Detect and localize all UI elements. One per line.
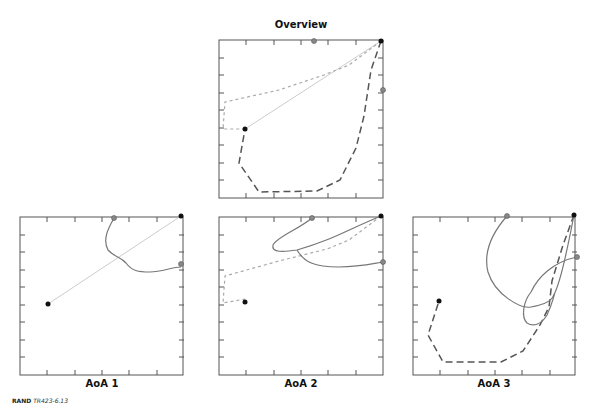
aoa3-panel <box>413 213 580 376</box>
black-point <box>46 302 51 307</box>
diagram-canvas <box>0 0 595 413</box>
solid-curve-upper <box>273 216 381 251</box>
dotted-path <box>223 216 381 303</box>
black-point <box>379 39 384 44</box>
aoa2-panel <box>219 214 386 376</box>
overview-panel <box>219 39 386 199</box>
solid-curve <box>106 218 181 272</box>
gray-point <box>312 39 317 44</box>
gray-point <box>575 255 580 260</box>
black-point <box>243 127 248 132</box>
dotted-path <box>223 41 381 129</box>
black-point <box>243 300 248 305</box>
dashed-path <box>428 215 574 362</box>
solid-curve-lower <box>297 250 383 267</box>
direct-line <box>48 216 181 304</box>
gray-point <box>505 214 510 219</box>
black-point <box>572 213 577 218</box>
gray-point <box>381 88 386 93</box>
gray-point <box>381 260 386 265</box>
gray-point <box>310 216 315 221</box>
gray-point <box>179 262 184 267</box>
gray-point <box>112 216 117 221</box>
black-point <box>437 299 442 304</box>
black-point <box>179 214 184 219</box>
black-point <box>379 214 384 219</box>
dashed-path <box>239 41 381 192</box>
aoa1-panel <box>20 214 184 376</box>
direct-line <box>245 41 381 129</box>
